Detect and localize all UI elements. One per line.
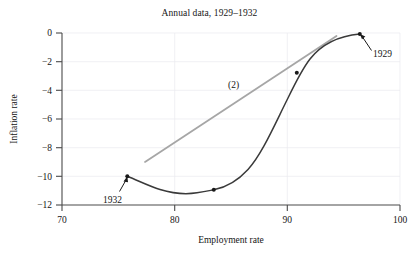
x-axis-title: Employment rate <box>198 235 264 245</box>
y-axis-title: Inflation rate <box>9 94 19 143</box>
x-tick-label-1: 80 <box>170 215 180 225</box>
y-tick-label-6: −12 <box>37 200 52 210</box>
data-point-1930 <box>295 71 299 75</box>
annotation-label-line-2: (2) <box>228 80 239 91</box>
chart-figure: Annual data, 1929–1932 <box>0 0 419 266</box>
y-axis-ticks <box>56 33 62 205</box>
annotation-label-1929: 1929 <box>373 49 392 59</box>
data-points <box>125 32 361 192</box>
y-tick-label-3: −6 <box>42 114 52 124</box>
annotation-arrow-1932 <box>120 176 129 191</box>
line-2-series <box>145 36 337 162</box>
y-tick-label-4: −8 <box>42 143 52 153</box>
y-tick-label-2: −4 <box>42 86 52 96</box>
y-tick-label-5: −10 <box>37 172 52 182</box>
x-tick-label-0: 70 <box>57 215 67 225</box>
plot-area: 0 −2 −4 −6 −8 −10 −12 70 80 90 100 Emplo… <box>0 0 419 266</box>
x-tick-label-3: 100 <box>393 215 408 225</box>
phillips-curve-series <box>127 34 359 194</box>
annotation-label-1932: 1932 <box>103 195 122 205</box>
y-tick-label-0: 0 <box>47 28 52 38</box>
y-tick-label-1: −2 <box>42 57 52 67</box>
x-axis-ticks <box>62 205 400 211</box>
annotation-arrow-1929 <box>360 34 372 51</box>
data-point-1931 <box>212 188 216 192</box>
x-tick-label-2: 90 <box>283 215 293 225</box>
